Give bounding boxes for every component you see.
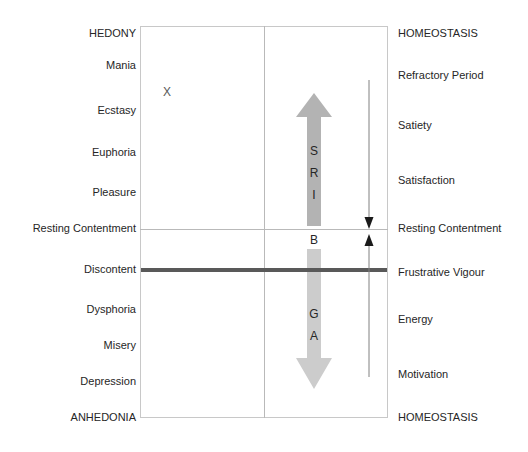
right-label-resting-contentment: Resting Contentment	[398, 222, 501, 235]
left-label-dysphoria: Dysphoria	[86, 303, 136, 316]
left-label-discontent: Discontent	[84, 263, 136, 276]
thin-down-arrow	[362, 80, 376, 229]
marker-x: X	[163, 85, 171, 99]
right-label-refractory-period: Refractory Period	[398, 69, 484, 82]
up-arrow-letters: S R I	[296, 140, 332, 206]
left-label-resting-contentment: Resting Contentment	[33, 222, 136, 235]
frustrative-vigour-baseline-bar	[141, 268, 387, 272]
between-arrows-letter-b: B	[296, 233, 332, 247]
left-label-hedony: HEDONY	[89, 27, 136, 40]
up-arrow-letter-i: I	[296, 184, 332, 206]
right-label-frustrative-vigour: Frustrative Vigour	[398, 266, 485, 279]
up-arrow-letter-r: R	[296, 162, 332, 184]
right-label-energy: Energy	[398, 313, 433, 326]
thin-up-arrow	[362, 234, 376, 377]
left-label-mania: Mania	[106, 59, 136, 72]
down-arrow-letter-a: A	[296, 325, 332, 347]
right-label-homeostasis-top: HOMEOSTASIS	[398, 27, 478, 40]
down-arrow-letter-g: G	[296, 303, 332, 325]
resting-contentment-midline	[140, 229, 388, 230]
right-label-satiety: Satiety	[398, 119, 432, 132]
left-label-depression: Depression	[80, 375, 136, 388]
down-arrow-letters: G A	[296, 303, 332, 347]
right-label-satisfaction: Satisfaction	[398, 174, 455, 187]
left-label-pleasure: Pleasure	[93, 186, 136, 199]
left-label-euphoria: Euphoria	[92, 146, 136, 159]
left-label-ecstasy: Ecstasy	[97, 104, 136, 117]
right-label-homeostasis-bottom: HOMEOSTASIS	[398, 411, 478, 424]
up-arrow-letter-s: S	[296, 140, 332, 162]
vertical-divider-line	[264, 26, 265, 418]
left-label-misery: Misery	[104, 339, 136, 352]
diagram-canvas: X S R I B G A HEDONY Mani	[0, 0, 528, 452]
left-label-anhedonia: ANHEDONIA	[71, 411, 136, 424]
right-label-motivation: Motivation	[398, 368, 448, 381]
